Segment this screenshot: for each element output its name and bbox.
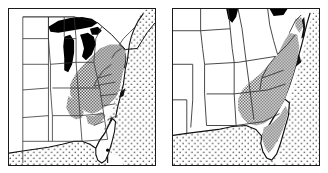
figure-two-panel-maps: Distribution maps of the eastern United …	[0, 0, 328, 173]
map-panel-left	[8, 8, 156, 166]
lake-okeechobee-dot-left	[106, 149, 109, 152]
map-left-canvas	[9, 9, 155, 165]
map-panel-right	[172, 8, 320, 166]
map-right-canvas	[173, 9, 319, 165]
